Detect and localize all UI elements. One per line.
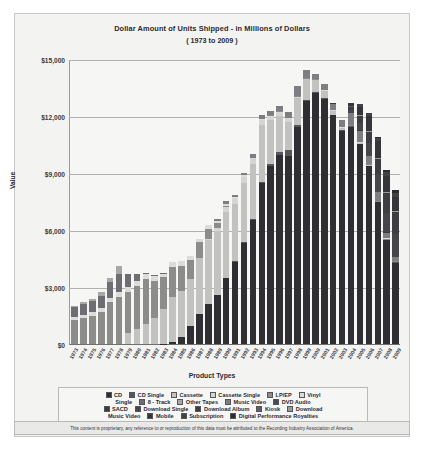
bar-column[interactable] — [150, 60, 159, 344]
bar-column[interactable] — [338, 60, 347, 344]
stacked-bar[interactable] — [116, 266, 123, 344]
x-axis-tick: 2007 — [374, 346, 383, 372]
legend-item[interactable]: CD Single — [129, 392, 164, 398]
bar-column[interactable] — [115, 60, 124, 344]
stacked-bar[interactable] — [267, 111, 274, 345]
legend-item[interactable]: Subscription — [181, 413, 224, 419]
stacked-bar[interactable] — [134, 274, 141, 344]
legend-item[interactable]: Cassette Single — [210, 392, 260, 398]
bar-column[interactable] — [347, 60, 356, 344]
legend-item[interactable]: Kiosk — [256, 406, 280, 412]
bar-column[interactable] — [204, 60, 213, 344]
bar-column[interactable] — [391, 60, 400, 344]
stacked-bar[interactable] — [98, 292, 105, 344]
stacked-bar[interactable] — [89, 299, 96, 344]
legend-item[interactable]: Download Album — [195, 406, 249, 412]
legend-item[interactable]: Digital Performance Royalties — [230, 413, 318, 419]
stacked-bar[interactable] — [169, 262, 176, 344]
stacked-bar[interactable] — [312, 74, 319, 344]
bar-column[interactable] — [195, 60, 204, 344]
bar-column[interactable] — [320, 60, 329, 344]
bar-column[interactable] — [266, 60, 275, 344]
stacked-bar[interactable] — [125, 274, 132, 344]
bar-segment — [276, 116, 283, 152]
bar-column[interactable] — [88, 60, 97, 344]
stacked-bar[interactable] — [143, 273, 150, 344]
stacked-bar[interactable] — [187, 256, 194, 344]
stacked-bar[interactable] — [160, 273, 167, 344]
bar-column[interactable] — [141, 60, 150, 344]
stacked-bar[interactable] — [348, 103, 355, 344]
stacked-bar[interactable] — [178, 261, 185, 344]
legend-item[interactable]: Music Video — [225, 399, 266, 405]
bar-column[interactable] — [311, 60, 320, 344]
bar-column[interactable] — [382, 60, 391, 344]
bar-column[interactable] — [97, 60, 106, 344]
stacked-bar[interactable] — [107, 278, 114, 344]
stacked-bar[interactable] — [151, 275, 158, 344]
stacked-bar[interactable] — [339, 120, 346, 344]
bar-column[interactable] — [373, 60, 382, 344]
stacked-bar[interactable] — [303, 70, 310, 344]
stacked-bar[interactable] — [357, 104, 364, 344]
legend-item[interactable]: Download Single — [135, 406, 189, 412]
legend-item[interactable]: Vinyl — [299, 392, 321, 398]
legend-item[interactable]: Mobile — [147, 413, 173, 419]
legend-item[interactable]: LP/EP — [267, 392, 292, 398]
legend-item[interactable]: 8 - Track — [139, 399, 170, 405]
bar-column[interactable] — [275, 60, 284, 344]
bar-column[interactable] — [284, 60, 293, 344]
stacked-bar[interactable] — [71, 306, 78, 344]
legend-item[interactable]: Download — [287, 406, 322, 412]
stacked-bar[interactable] — [223, 201, 230, 344]
stacked-bar[interactable] — [214, 219, 221, 344]
stacked-bar[interactable] — [294, 86, 301, 344]
bar-column[interactable] — [79, 60, 88, 344]
bar-column[interactable] — [302, 60, 311, 344]
bar-segment — [178, 337, 185, 344]
stacked-bar[interactable] — [232, 195, 239, 344]
bar-column[interactable] — [159, 60, 168, 344]
bar-column[interactable] — [364, 60, 373, 344]
bar-column[interactable] — [248, 60, 257, 344]
bar-column[interactable] — [240, 60, 249, 344]
legend-item[interactable]: SACD — [104, 406, 128, 412]
stacked-bar[interactable] — [241, 173, 248, 345]
bar-column[interactable] — [124, 60, 133, 344]
bar-column[interactable] — [106, 60, 115, 344]
bar-column[interactable] — [222, 60, 231, 344]
stacked-bar[interactable] — [250, 154, 257, 344]
legend-item[interactable]: Other Tapes — [177, 399, 218, 405]
stacked-bar[interactable] — [285, 112, 292, 344]
stacked-bar[interactable] — [205, 225, 212, 344]
bar-column[interactable] — [356, 60, 365, 344]
legend-item[interactable]: Single — [115, 399, 132, 405]
stacked-bar[interactable] — [330, 103, 337, 344]
legend-label: Cassette Single — [218, 392, 260, 398]
bar-column[interactable] — [257, 60, 266, 344]
stacked-bar[interactable] — [259, 115, 266, 344]
bar-column[interactable] — [186, 60, 195, 344]
bar-column[interactable] — [231, 60, 240, 344]
legend-row: SACDDownload SingleDownload AlbumKioskDo… — [61, 406, 365, 412]
stacked-bar[interactable] — [375, 137, 382, 344]
stacked-bar[interactable] — [321, 84, 328, 344]
stacked-bar[interactable] — [366, 113, 373, 344]
bar-column[interactable] — [329, 60, 338, 344]
stacked-bar[interactable] — [276, 106, 283, 344]
bar-column[interactable] — [177, 60, 186, 344]
bar-column[interactable] — [213, 60, 222, 344]
legend-swatch-icon — [225, 399, 231, 405]
bar-column[interactable] — [293, 60, 302, 344]
legend-item[interactable]: CD — [106, 392, 123, 398]
bar-column[interactable] — [70, 60, 79, 344]
legend-item[interactable]: Cassette — [171, 392, 203, 398]
legend-item[interactable]: Music Video — [108, 413, 141, 419]
legend-item[interactable]: DVD Audio — [273, 399, 311, 405]
bar-column[interactable] — [132, 60, 141, 344]
stacked-bar[interactable] — [80, 302, 87, 344]
stacked-bar[interactable] — [383, 170, 390, 344]
stacked-bar[interactable] — [392, 190, 399, 344]
bar-column[interactable] — [168, 60, 177, 344]
stacked-bar[interactable] — [196, 239, 203, 344]
